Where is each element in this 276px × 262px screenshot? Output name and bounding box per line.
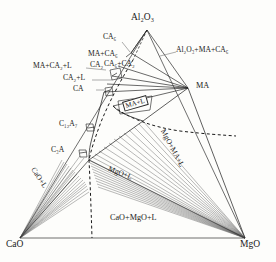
label-ma-ca2-l: MA+CA₂+L — [33, 62, 72, 70]
corner-label-cao: CaO — [6, 240, 23, 250]
label-ma: MA — [196, 82, 209, 90]
label-al2o3-ma-ca6: Al₂O₃+MA+CA₆ — [176, 46, 228, 54]
ma-compound-joins — [104, 30, 188, 106]
phase-diagram-container: Al₂O₃ CaO MgO CA₆ MA+CA₆ CA₆+CA₂ MA+CA₂+… — [0, 0, 276, 262]
label-ca6-ca2: CA₆+CA₂ — [104, 60, 135, 68]
label-ca2: CA₂ — [90, 61, 103, 69]
phase-diagram-svg — [0, 0, 276, 262]
label-c3a: C₃A — [51, 146, 64, 154]
corner-label-mgo: MgO — [240, 240, 260, 250]
label-ma-ca6: MA+CA₆ — [88, 50, 118, 58]
corner-label-al2o3: Al₂O₃ — [131, 13, 154, 23]
label-ca2-l: CA₂+L — [63, 74, 85, 82]
label-cao-mgo-l: CaO+MgO+L — [110, 214, 157, 222]
label-ca6: CA₆ — [103, 33, 116, 41]
label-ca: CA — [73, 85, 84, 93]
al2o3-subtriangle — [131, 30, 147, 53]
al2o3-dashed-divider — [133, 30, 147, 60]
label-c12a7: C₁₂A₇ — [59, 120, 78, 128]
